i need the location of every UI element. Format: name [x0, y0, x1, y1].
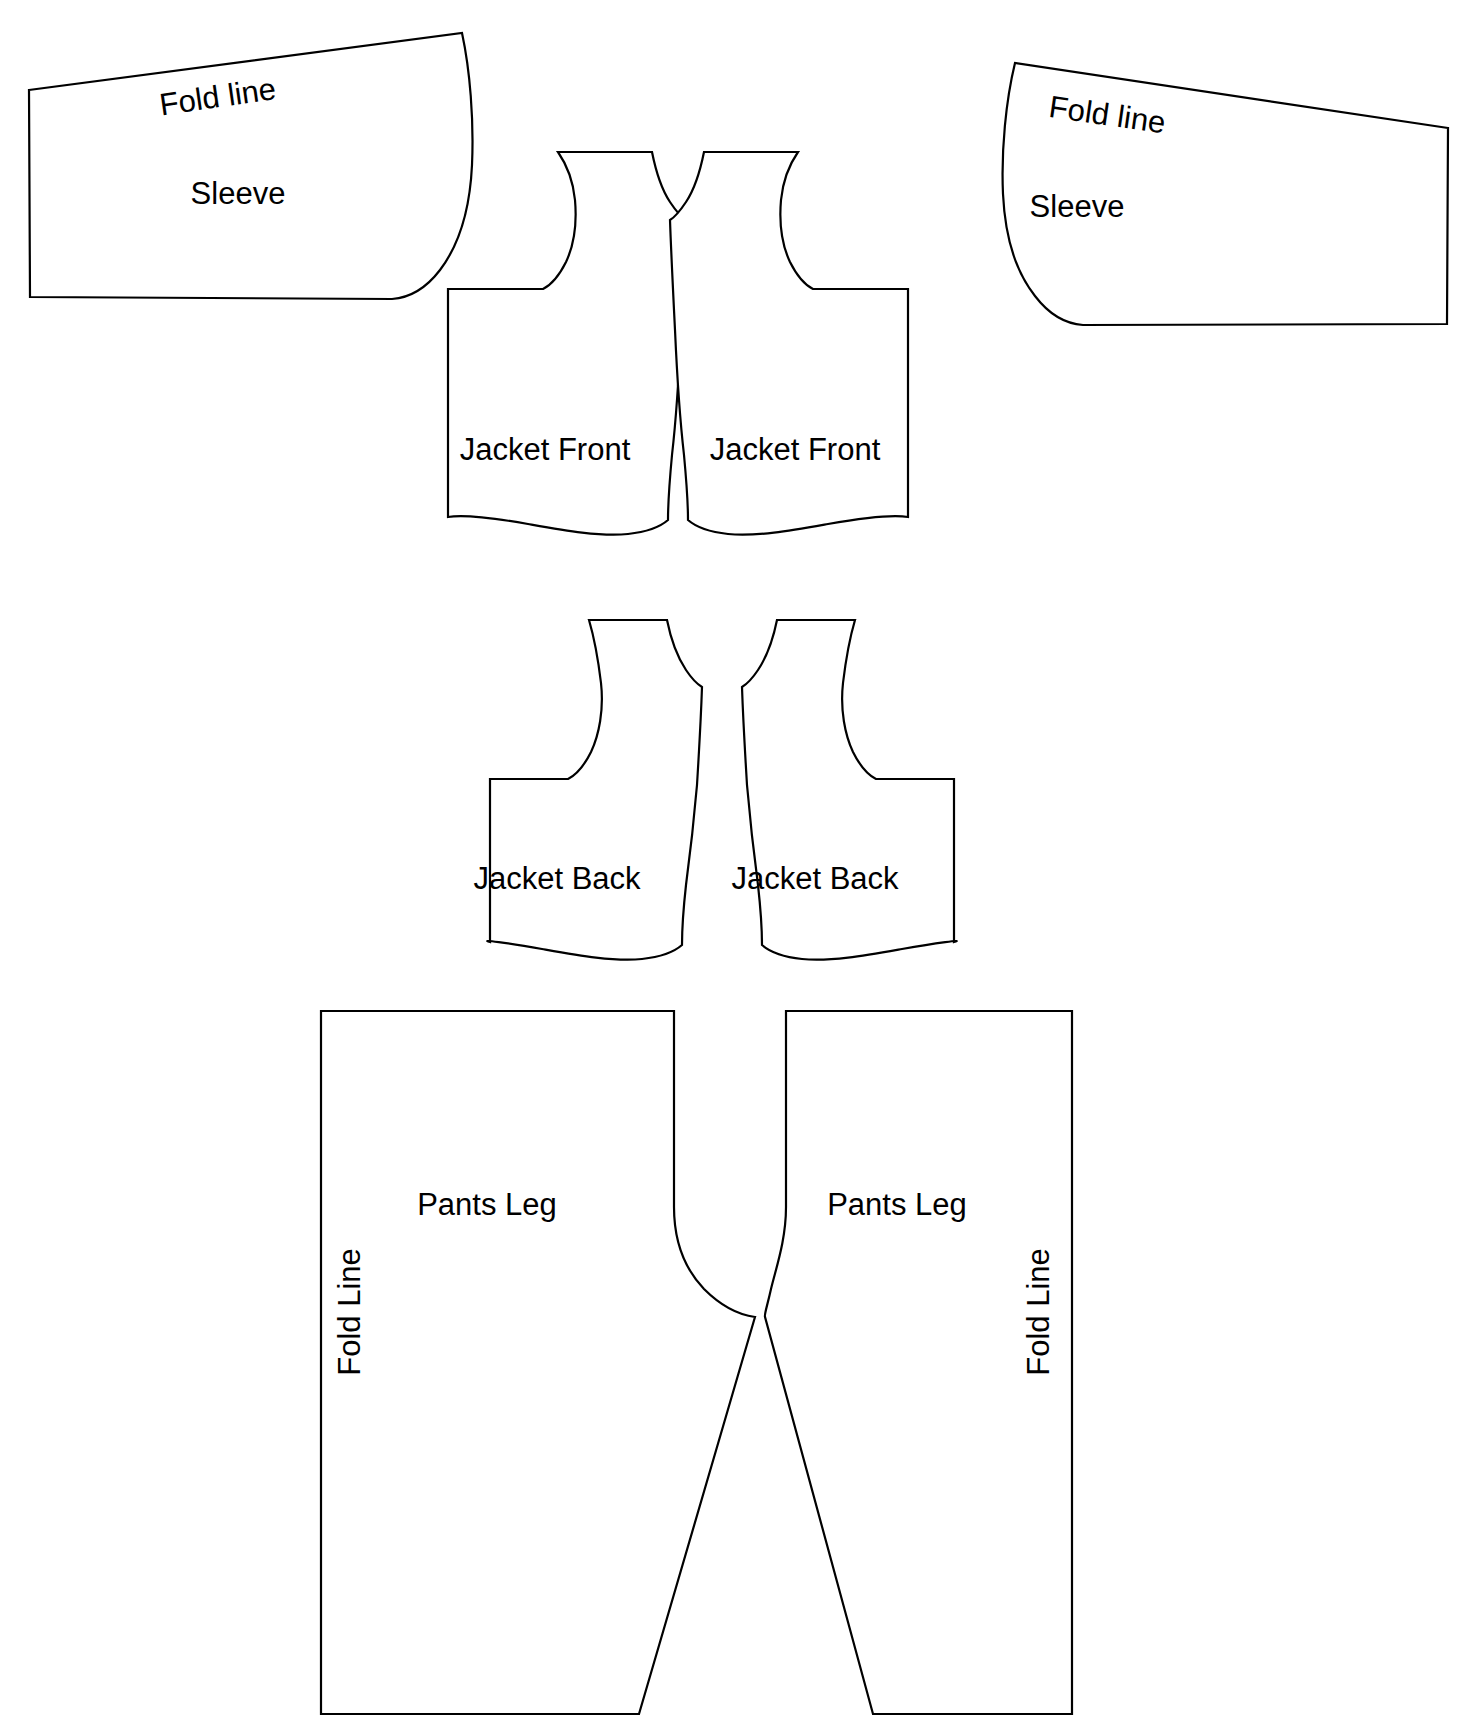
pants-leg-left-fold-label: Fold Line	[332, 1248, 367, 1376]
piece-pants-leg-left[interactable]: Pants Leg Fold Line	[321, 1011, 755, 1714]
piece-jacket-front-right[interactable]: Jacket Front	[670, 152, 908, 535]
jacket-back-left-label: Jacket Back	[473, 861, 641, 896]
piece-jacket-back-right[interactable]: Jacket Back	[731, 620, 956, 960]
sleeve-left-outline	[29, 33, 473, 299]
jacket-back-left-outline	[487, 620, 702, 960]
pants-leg-left-label: Pants Leg	[417, 1187, 557, 1222]
pattern-diagram: Fold line Sleeve Fold line Sleeve Jacket…	[0, 0, 1477, 1728]
jacket-front-right-outline	[670, 152, 908, 535]
piece-sleeve-right[interactable]: Fold line Sleeve	[1003, 63, 1448, 325]
sleeve-right-label: Sleeve	[1030, 189, 1125, 224]
piece-pants-leg-right[interactable]: Pants Leg Fold Line	[765, 1011, 1072, 1714]
pants-leg-right-label: Pants Leg	[827, 1187, 967, 1222]
pattern-sheet: Fold line Sleeve Fold line Sleeve Jacket…	[0, 0, 1477, 1728]
sleeve-left-label: Sleeve	[191, 176, 286, 211]
jacket-front-left-label: Jacket Front	[460, 432, 631, 467]
piece-sleeve-left[interactable]: Fold line Sleeve	[29, 33, 473, 299]
jacket-front-left-outline	[448, 152, 686, 535]
pants-leg-left-outline	[321, 1011, 755, 1714]
piece-jacket-back-left[interactable]: Jacket Back	[473, 620, 702, 960]
jacket-front-right-label: Jacket Front	[710, 432, 881, 467]
jacket-back-right-label: Jacket Back	[731, 861, 899, 896]
jacket-back-right-outline	[742, 620, 957, 960]
piece-jacket-front-left[interactable]: Jacket Front	[448, 152, 686, 535]
pants-leg-right-fold-label: Fold Line	[1021, 1248, 1056, 1376]
